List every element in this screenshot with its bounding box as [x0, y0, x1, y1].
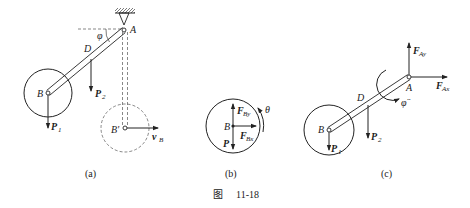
svg-text:By: By	[243, 110, 251, 118]
label-B-prime: B'	[111, 124, 120, 135]
figure-11-18: A B D φ B' P 2 P 1 v B (a) B F By F Bx P…	[0, 0, 470, 208]
label-vB: v	[152, 131, 157, 142]
label-A: A	[129, 24, 137, 35]
panel-b: B F By F Bx P θ (b) 图 11-18	[206, 99, 270, 200]
svg-text:B: B	[159, 136, 164, 144]
rod-AB	[47, 28, 126, 96]
label-theta: θ	[265, 104, 270, 115]
label-B: B	[318, 124, 324, 135]
label-P1: P	[51, 121, 58, 132]
label-P2: P	[371, 131, 378, 142]
label-D: D	[83, 43, 92, 54]
fixed-support-icon	[115, 8, 135, 25]
rod-AB	[328, 75, 411, 133]
panel-c-label: (c)	[381, 168, 392, 180]
svg-text:1: 1	[338, 148, 342, 156]
panel-c: A B D F Ay F Ax P 2 P 1 φ̈ (c)	[304, 43, 450, 180]
panel-a-label: (a)	[85, 168, 96, 180]
svg-text:2: 2	[378, 136, 382, 144]
figure-caption-prefix: 图	[213, 189, 223, 200]
label-P: P	[223, 138, 230, 149]
label-D: D	[356, 92, 365, 103]
label-A: A	[405, 82, 413, 93]
svg-text:Bx: Bx	[246, 135, 254, 143]
panel-a: A B D φ B' P 2 P 1 v B (a)	[24, 8, 164, 180]
angular-acceleration-arrow	[377, 70, 399, 100]
svg-text:Ay: Ay	[418, 50, 427, 58]
svg-text:1: 1	[58, 126, 62, 134]
label-phi-ddot: φ̈	[401, 97, 411, 108]
label-B: B	[37, 88, 43, 99]
panel-b-label: (b)	[225, 168, 237, 180]
label-B: B	[224, 121, 230, 132]
label-P2: P	[95, 88, 102, 99]
svg-text:Ax: Ax	[441, 85, 450, 93]
label-phi: φ	[97, 30, 103, 41]
svg-text:2: 2	[102, 93, 106, 101]
label-P1: P	[331, 143, 338, 154]
figure-caption-number: 11-18	[236, 189, 259, 200]
